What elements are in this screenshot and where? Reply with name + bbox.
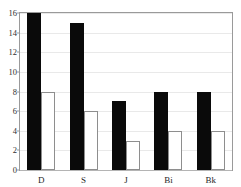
y-axis-tick-marks	[0, 12, 20, 171]
bar-J-white-series	[126, 141, 140, 170]
bar-Bi-white-series	[168, 131, 182, 170]
bar-Bi-black-series	[154, 92, 168, 171]
bar-group-Bk	[197, 13, 225, 170]
x-tick-label-S: S	[81, 175, 86, 186]
bar-D-white-series	[41, 92, 55, 171]
bar-D-black-series	[27, 13, 41, 170]
bar-J-black-series	[112, 101, 126, 170]
bar-Bk-white-series	[211, 131, 225, 170]
bar-series-layer	[20, 13, 232, 170]
bar-group-D	[27, 13, 55, 170]
bar-group-J	[112, 13, 140, 170]
x-axis-category-labels: DSJBiBk	[20, 175, 232, 187]
bar-S-white-series	[84, 111, 98, 170]
x-tick-label-Bi: Bi	[164, 175, 173, 186]
x-tick-label-D: D	[38, 175, 45, 186]
bar-Bk-black-series	[197, 92, 211, 171]
gridline-0	[20, 170, 232, 171]
x-tick-label-J: J	[124, 175, 128, 186]
bar-group-Bi	[154, 13, 182, 170]
x-tick-label-Bk: Bk	[206, 175, 217, 186]
bar-chart: 0246810121416 DSJBiBk	[0, 7, 241, 187]
bar-S-black-series	[70, 23, 84, 170]
clipped-caption-text: ᵔ ᵔ ᵔ ᵔ	[0, 0, 241, 3]
clipped-caption: ᵔ ᵔ ᵔ ᵔ	[0, 0, 241, 7]
bar-group-S	[70, 13, 98, 170]
